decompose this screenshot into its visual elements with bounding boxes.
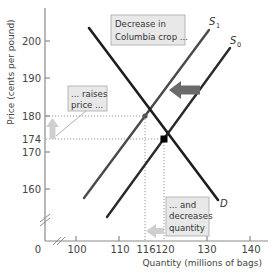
y-tick-190: 190 xyxy=(22,73,41,84)
y-tick-160: 160 xyxy=(22,184,41,195)
x-tick-100: 100 xyxy=(67,244,86,255)
curve-label-d: D xyxy=(220,198,228,209)
original-equilibrium-point xyxy=(161,136,168,143)
x-tick-116: 116 xyxy=(136,244,155,255)
y-tick-200: 200 xyxy=(22,36,41,47)
demand-curve xyxy=(89,28,218,200)
y-tick-170: 170 xyxy=(22,147,41,158)
supply-demand-chart: 200 190 180 174 170 160 0 100 110 116 12… xyxy=(0,0,276,278)
x-tick-140: 140 xyxy=(241,244,260,255)
svg-text:quantity: quantity xyxy=(169,223,205,233)
svg-text:S: S xyxy=(209,16,216,27)
svg-text:Decrease in: Decrease in xyxy=(115,19,166,29)
note-supply-decrease: Decrease in Columbia crop ... xyxy=(111,15,188,45)
x-tick-120: 120 xyxy=(155,244,174,255)
svg-text:price ...: price ... xyxy=(71,100,103,110)
x-tick-110: 110 xyxy=(110,244,129,255)
y-tick-174: 174 xyxy=(22,134,41,145)
svg-text:1: 1 xyxy=(216,22,220,30)
svg-text:decreases: decreases xyxy=(169,211,213,221)
svg-text:... raises: ... raises xyxy=(71,89,108,99)
y-tick-180: 180 xyxy=(22,111,41,122)
curve-label-s1: S 1 xyxy=(209,16,220,30)
curve-label-s0: S 0 xyxy=(230,35,241,49)
svg-text:... and: ... and xyxy=(169,200,196,210)
svg-text:S: S xyxy=(230,35,237,46)
y-tick-labels: 200 190 180 174 170 160 xyxy=(22,36,41,195)
new-equilibrium-point xyxy=(142,113,147,118)
note-raises-price: ... raises price ... xyxy=(56,86,108,136)
x-tick-labels: 0 100 110 116 120 130 140 xyxy=(35,244,261,255)
axis-break-marks xyxy=(40,214,65,245)
svg-text:Columbia crop ...: Columbia crop ... xyxy=(115,32,188,42)
svg-text:0: 0 xyxy=(237,41,241,49)
price-up-arrow-icon xyxy=(46,118,59,139)
x-tick-0: 0 xyxy=(35,244,41,255)
x-axis-title: Quantity (millions of bags) xyxy=(143,258,262,268)
x-tick-130: 130 xyxy=(197,244,216,255)
guide-lines xyxy=(46,116,164,241)
quantity-left-arrow-icon xyxy=(146,224,164,238)
y-axis-title: Price (cents per pound) xyxy=(6,19,16,124)
note-decreases-quantity: ... and decreases quantity xyxy=(166,197,213,236)
